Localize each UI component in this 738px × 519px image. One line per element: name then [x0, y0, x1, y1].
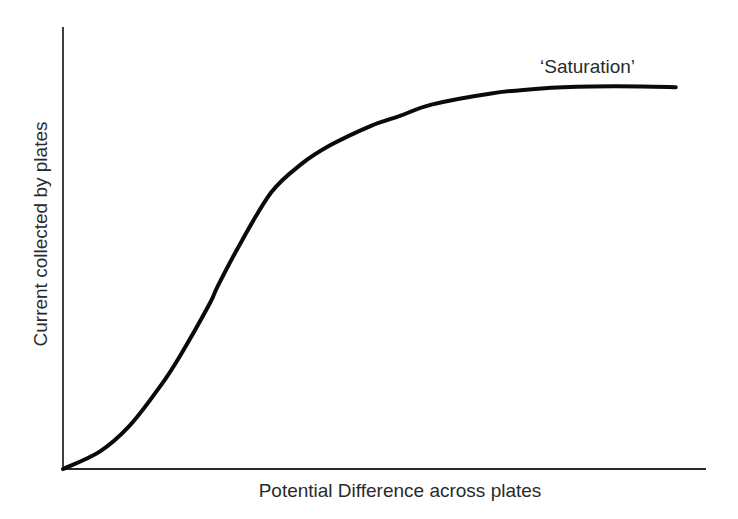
saturation-annotation: ‘Saturation’ — [540, 56, 635, 77]
x-axis-label: Potential Difference across plates — [259, 480, 542, 501]
data-curve — [63, 86, 676, 469]
y-axis-label: Current collected by plates — [30, 122, 51, 347]
chart: ‘Saturation’ Potential Difference across… — [0, 0, 738, 519]
